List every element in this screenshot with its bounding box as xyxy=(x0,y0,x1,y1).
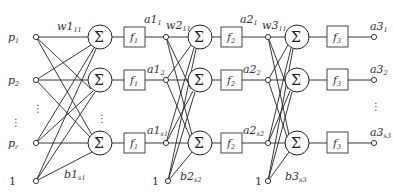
bias-label-b2-s2: b2s2 xyxy=(180,170,202,184)
sum-2-2: Σ xyxy=(194,72,204,88)
input-label-p1: p1 xyxy=(8,31,19,45)
sum-3-3: Σ xyxy=(291,135,301,151)
output-label-a3-s3: a3s3 xyxy=(370,126,391,140)
bias-input-label-3: 1 xyxy=(255,175,262,188)
output-label-a1-2: a12 xyxy=(147,63,165,77)
sum-2-1: Σ xyxy=(194,29,204,45)
input-ellipsis: ⋮ xyxy=(11,117,21,128)
weight-label-w1-11: w111 xyxy=(57,20,82,34)
neural-network-diagram: Σ Σ Σ f1 f1 f1 Σ Σ Σ xyxy=(0,0,394,196)
output-label-a3-2: a32 xyxy=(370,63,388,77)
bias-label-b3-s3: b3s3 xyxy=(285,170,307,184)
output-ellipsis: ⋮ xyxy=(371,101,381,112)
output-label-a3-1: a31 xyxy=(370,20,388,34)
sum-3-1: Σ xyxy=(291,29,301,45)
output-label-a1-s1: a1s1 xyxy=(147,124,168,138)
output-label-a2-1: a21 xyxy=(240,13,258,27)
input-nodes xyxy=(33,34,376,183)
sum-1-1: Σ xyxy=(94,29,104,45)
output-label-a1-1: a11 xyxy=(144,13,162,27)
bias-input-label-2: 1 xyxy=(152,175,159,188)
layer1-connections xyxy=(36,37,96,181)
sum-1-3: Σ xyxy=(94,135,104,151)
input-node-ellipsis: ⋮ xyxy=(33,103,43,114)
diagram-svg: Σ Σ Σ f1 f1 f1 Σ Σ Σ xyxy=(0,0,394,196)
weight-label-w2-11: w211 xyxy=(166,19,191,33)
sum-3-2: Σ xyxy=(291,72,301,88)
input-label-p2: p2 xyxy=(8,74,19,88)
layer3-neurons: Σ Σ Σ f3 f3 f3 xyxy=(285,25,374,155)
sum-1-2: Σ xyxy=(94,72,104,88)
bias-input-label-1: 1 xyxy=(9,175,16,188)
sum1-ellipsis: ⋮ xyxy=(97,113,107,124)
layer2-connections xyxy=(166,37,196,181)
layer3-connections xyxy=(268,37,293,181)
output-label-a2-2: a22 xyxy=(243,63,261,77)
weight-label-w3-11: w311 xyxy=(262,19,287,33)
bias-label-b1-s1: b1s1 xyxy=(64,168,86,182)
sum-2-3: Σ xyxy=(194,135,204,151)
input-label-pr: pr xyxy=(8,137,19,151)
output-label-a2-s2: a2s2 xyxy=(243,124,264,138)
